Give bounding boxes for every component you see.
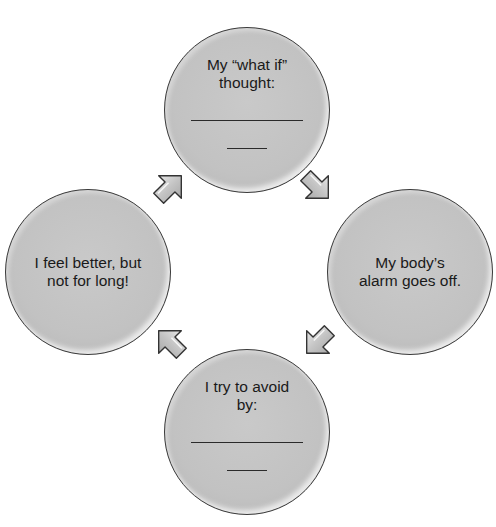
node-label-line-1: My “what if”	[207, 56, 287, 74]
node-label-line-2: by:	[237, 396, 258, 414]
node-label-line-2: not for long!	[47, 272, 129, 290]
blank-line-short[interactable]	[227, 470, 267, 471]
node-label-line-2: alarm goes off.	[359, 272, 461, 290]
arrow-down-left-icon	[290, 314, 347, 371]
blank-line-short[interactable]	[227, 148, 267, 149]
node-label-line-1: My body’s	[375, 254, 445, 272]
node-try-to-avoid: I try to avoid by:	[164, 349, 330, 515]
node-label-line-2: thought:	[219, 74, 275, 92]
node-label-line-1: I try to avoid	[205, 378, 289, 396]
node-feel-better: I feel better, but not for long!	[5, 189, 171, 355]
node-what-if-thought: My “what if” thought:	[164, 27, 330, 193]
blank-line-long[interactable]	[191, 120, 303, 121]
node-body-alarm: My body’s alarm goes off.	[327, 189, 493, 355]
node-label-line-1: I feel better, but	[35, 254, 142, 272]
blank-line-long[interactable]	[191, 442, 303, 443]
